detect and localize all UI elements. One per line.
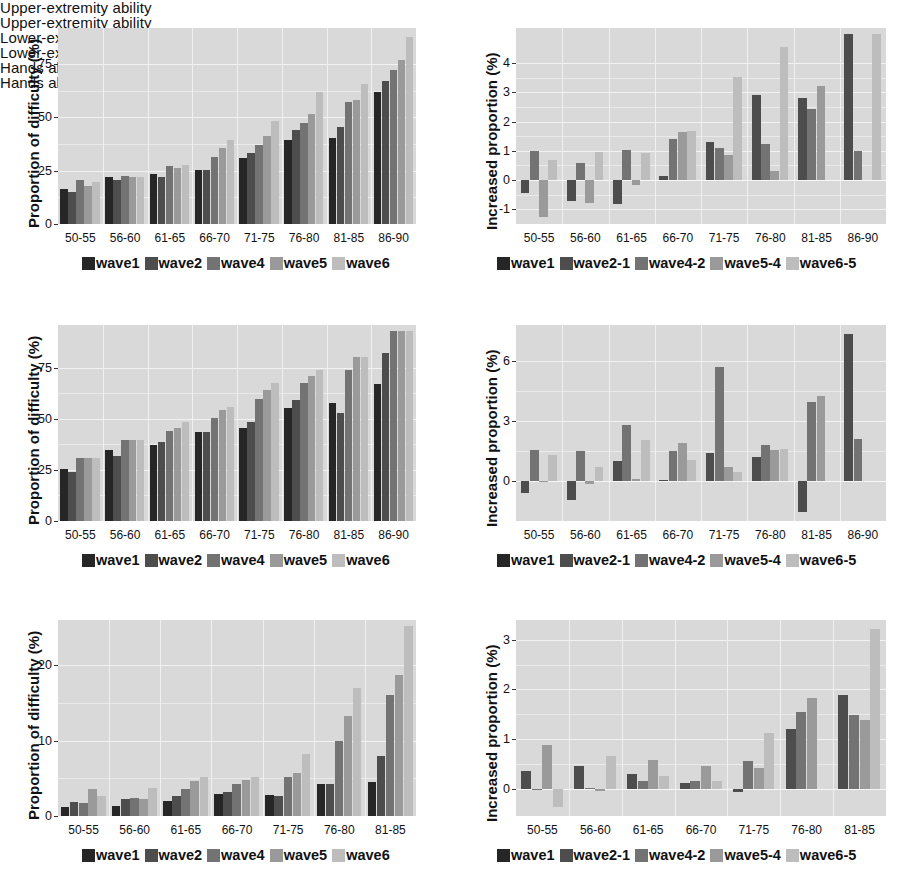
plot-area: [58, 325, 416, 521]
y-tick-mark: [512, 122, 516, 123]
legend-label: wave2: [159, 256, 203, 271]
gridline-vertical: [160, 620, 161, 816]
legend-label: wave4: [221, 553, 265, 568]
bar: [382, 81, 389, 224]
bar: [292, 400, 299, 521]
gridline-vertical: [562, 28, 563, 224]
gridline-vertical: [282, 325, 283, 521]
legend-item-wave2-1: wave2-1: [560, 256, 630, 271]
gridline-horizontal: [516, 689, 886, 690]
bar: [807, 698, 817, 788]
bar: [532, 789, 542, 790]
y-tick-mark: [54, 816, 58, 817]
gridline-vertical: [794, 28, 795, 224]
bar: [265, 795, 274, 816]
bar: [97, 796, 106, 816]
legend-item-wave5: wave5: [270, 553, 328, 568]
x-tick-label: 86-90: [837, 232, 889, 244]
bar: [567, 481, 576, 500]
bar: [798, 481, 807, 512]
bar: [345, 370, 352, 521]
bar: [390, 331, 397, 521]
bar: [190, 781, 199, 816]
bar: [641, 440, 650, 481]
bar: [300, 123, 307, 224]
legend-swatch: [332, 554, 345, 567]
x-tick-label: 50-55: [513, 232, 565, 244]
plot-area: [516, 28, 886, 224]
bar: [92, 458, 99, 521]
bar: [121, 799, 130, 816]
y-tick-label: 3: [482, 634, 510, 647]
bar: [770, 171, 779, 180]
bar: [223, 792, 232, 816]
legend-label: wave5: [284, 256, 328, 271]
bar: [239, 158, 246, 224]
bar: [386, 695, 395, 816]
legend-swatch: [635, 257, 648, 270]
y-axis-label: Increased proportion (%): [484, 349, 499, 527]
bar: [780, 47, 789, 180]
bar: [844, 34, 853, 180]
bar: [105, 177, 112, 224]
bar: [576, 451, 585, 481]
bar: [817, 86, 826, 180]
gridline-vertical: [794, 325, 795, 521]
chart-legend: wave1wave2-1wave4-2wave5-4wave6-5: [497, 256, 856, 271]
y-tick-mark: [54, 470, 58, 471]
legend-item-wave4: wave4: [207, 553, 265, 568]
bar: [780, 449, 789, 481]
legend-label: wave1: [96, 553, 140, 568]
bar: [390, 70, 397, 224]
bar: [308, 376, 315, 521]
plot-area: [516, 620, 886, 816]
bar: [690, 781, 700, 789]
bar: [353, 688, 362, 816]
bar: [680, 783, 690, 789]
legend-label: wave4: [221, 256, 265, 271]
bar: [148, 788, 157, 816]
figure-canvas: Upper-extremity abilityProportion of dif…: [0, 0, 915, 890]
y-tick-mark: [512, 361, 516, 362]
bar: [200, 777, 209, 816]
y-tick-label: 20: [24, 659, 52, 672]
bar: [61, 807, 70, 816]
legend-label: wave1: [511, 256, 555, 271]
legend-swatch: [82, 554, 95, 567]
legend-item-wave1: wave1: [497, 553, 555, 568]
bar: [613, 180, 622, 203]
bar: [807, 402, 816, 481]
legend-item-wave1: wave1: [82, 553, 140, 568]
bar: [521, 481, 530, 493]
zero-line: [516, 789, 886, 790]
bar: [274, 796, 283, 816]
bar: [807, 109, 816, 180]
gridline-vertical: [365, 620, 366, 816]
bar: [659, 480, 668, 481]
y-tick-mark: [512, 481, 516, 482]
bar: [76, 180, 83, 224]
y-tick-mark: [512, 180, 516, 181]
bar: [606, 756, 616, 789]
bar: [166, 166, 173, 224]
bar: [613, 461, 622, 481]
bar: [137, 440, 144, 521]
bar: [854, 439, 863, 481]
bar: [733, 789, 743, 792]
bar: [539, 180, 548, 217]
gridline-vertical: [314, 620, 315, 816]
legend-swatch: [497, 257, 510, 270]
gridline-vertical: [371, 28, 372, 224]
y-tick-mark: [512, 92, 516, 93]
bar: [838, 695, 848, 788]
bar: [174, 428, 181, 521]
legend-item-wave6: wave6: [332, 256, 390, 271]
gridline-vertical: [192, 28, 193, 224]
bar: [329, 138, 336, 224]
bar: [715, 367, 724, 481]
bar: [150, 174, 157, 224]
bar: [724, 155, 733, 180]
legend-swatch: [332, 257, 345, 270]
legend-item-wave5-4: wave5-4: [710, 553, 780, 568]
bar: [641, 153, 650, 180]
